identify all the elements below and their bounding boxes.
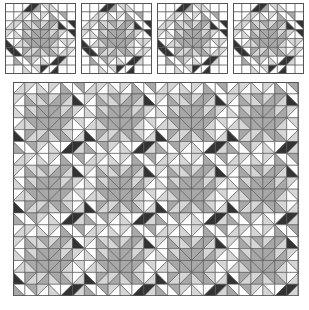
quilt-block-sample-3	[157, 3, 228, 74]
quilt-block-sample-4	[233, 3, 304, 74]
assembled-quilt	[13, 82, 299, 296]
quilt-block-sample-2	[81, 3, 152, 74]
quilt-block-sample-1	[5, 3, 76, 74]
